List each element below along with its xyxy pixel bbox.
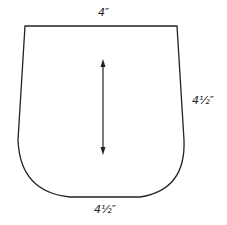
arrow-head-down-icon (101, 147, 106, 155)
pattern-outline (18, 26, 184, 197)
top-dimension-label: 4″ (98, 6, 109, 19)
arrow-head-up-icon (101, 59, 106, 67)
pattern-diagram (0, 0, 227, 225)
bottom-dimension-label: 4½″ (94, 203, 116, 216)
right-dimension-label: 4½″ (192, 94, 214, 107)
